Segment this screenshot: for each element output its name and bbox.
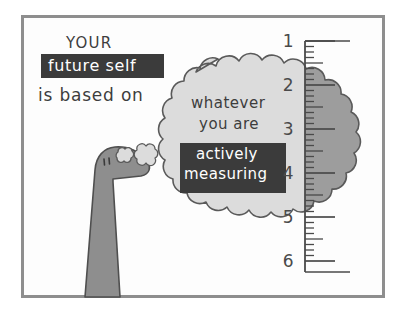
caption-line-is-based-on: is based on (38, 85, 144, 105)
bubble-highlight-text-actively: actively (196, 145, 258, 163)
dinosaur-eye-right (109, 158, 110, 164)
ruler-label-6: 6 (278, 251, 294, 271)
bubble-line-you-are: you are (199, 115, 259, 133)
caption-line-your: YOUR (66, 34, 112, 52)
ruler-label-3: 3 (278, 119, 294, 139)
ruler-label-2: 2 (278, 75, 294, 95)
bubble-line-whatever: whatever (191, 94, 265, 112)
dinosaur-eye-left (104, 159, 105, 165)
ruler-label-1: 1 (278, 31, 294, 51)
small-thought-puff-icon (116, 148, 134, 163)
cartoon-canvas: YOUR future self is based on whatever yo… (0, 0, 417, 323)
bubble-highlight-box: actively measuring (180, 143, 286, 193)
caption-highlight-text: future self (48, 56, 136, 75)
bubble-highlight-text-measuring: measuring (184, 165, 267, 183)
ruler-label-5: 5 (278, 207, 294, 227)
caption-highlight-box: future self (41, 54, 164, 78)
large-thought-puff-icon (134, 144, 158, 166)
ruler-label-4: 4 (278, 163, 294, 183)
dinosaur-figure (85, 147, 149, 297)
